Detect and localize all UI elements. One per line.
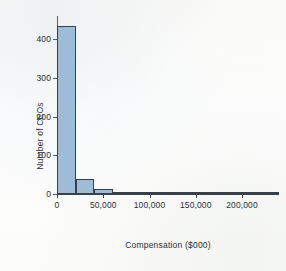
y-tick-label: 300 [37, 73, 51, 83]
x-tick-label: 50,000 [90, 200, 117, 210]
histogram-bar [261, 192, 280, 194]
x-tick-mark [103, 194, 104, 198]
x-axis-title: Compensation ($000) [57, 240, 279, 250]
x-tick-label: 200,000 [226, 200, 257, 210]
x-tick-label: 150,000 [180, 200, 211, 210]
histogram-bar [150, 192, 169, 194]
histogram-bar [94, 189, 113, 194]
plot-area: 0100200300400 050,000100,000150,000200,0… [57, 16, 279, 194]
histogram-bar [205, 192, 224, 194]
x-tick-mark [57, 194, 58, 198]
x-tick-label: 0 [55, 200, 60, 210]
x-tick-label: 100,000 [134, 200, 165, 210]
y-tick-label: 100 [37, 150, 51, 160]
x-tick-mark [196, 194, 197, 198]
x-tick-mark [150, 194, 151, 198]
histogram-bar [168, 192, 187, 194]
histogram-bar [76, 179, 95, 194]
histogram-bar [113, 192, 132, 194]
y-tick-label: 0 [46, 189, 51, 199]
chart-figure: Number of CEOs 0100200300400 050,000100,… [0, 0, 286, 271]
y-tick-label: 400 [37, 34, 51, 44]
y-tick-label: 200 [37, 112, 51, 122]
x-axis-line [57, 194, 279, 195]
histogram-bar [187, 192, 206, 194]
histogram-bar [242, 192, 261, 194]
x-tick-mark [242, 194, 243, 198]
histogram-bar [131, 192, 150, 194]
histogram-bar [57, 26, 76, 194]
histogram-bar [224, 192, 243, 194]
